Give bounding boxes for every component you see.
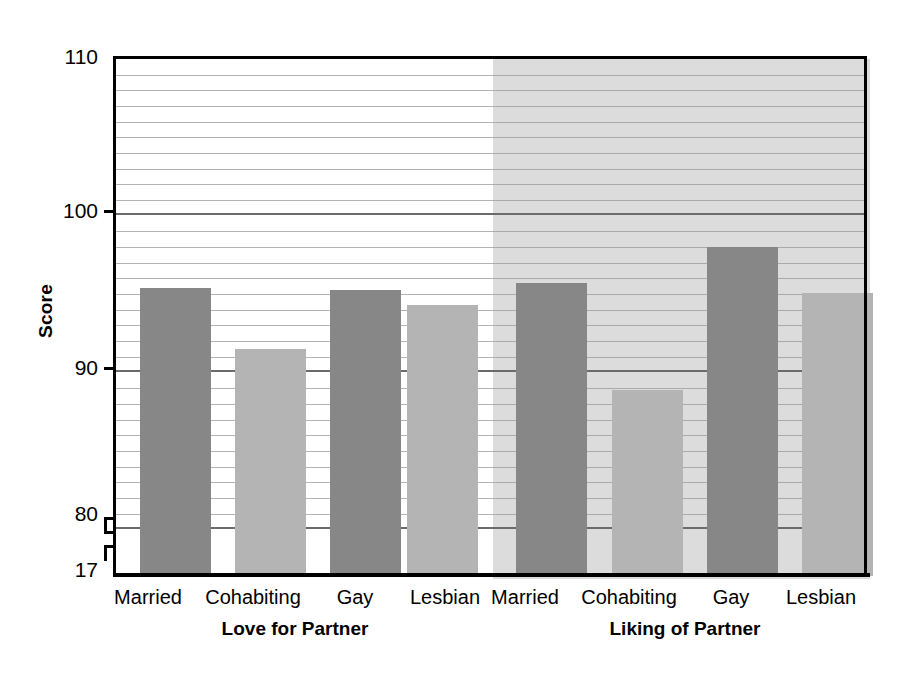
bar-liking-cohabiting[interactable]: [612, 390, 683, 576]
bar-love-married[interactable]: [140, 288, 211, 576]
gridline-108: [116, 90, 867, 91]
y-tick-label-90: 90: [46, 357, 98, 378]
group-label-love: Love for Partner: [165, 618, 425, 640]
y-tick-label-110: 110: [46, 46, 98, 67]
x-label-liking-lesbian: Lesbian: [761, 586, 881, 609]
y-tick-label-80: 80: [46, 503, 98, 524]
bar-liking-married[interactable]: [516, 283, 587, 576]
gridline-101: [116, 200, 867, 201]
axis-break-upper-stem: [104, 517, 107, 533]
group-label-liking: Liking of Partner: [545, 618, 825, 640]
y-tick-label-17: 17: [46, 559, 98, 580]
gridline-102: [116, 184, 867, 185]
gridline-104: [116, 153, 867, 154]
y-tick-label-100: 100: [46, 200, 98, 221]
bar-love-gay[interactable]: [330, 290, 401, 576]
gridline-99: [116, 231, 867, 232]
gridline-105: [116, 137, 867, 138]
gridline-109: [116, 75, 867, 76]
x-axis-rule: [113, 573, 870, 577]
gridline-106: [116, 122, 867, 123]
gridline-107: [116, 106, 867, 107]
gridline-100-major: [116, 213, 867, 215]
y-axis-title: Score: [35, 261, 57, 361]
bar-chart-figure: Score 110 100 90 80 17: [0, 0, 907, 678]
gridline-103: [116, 169, 867, 170]
bar-liking-lesbian[interactable]: [802, 293, 873, 576]
bar-love-lesbian[interactable]: [407, 305, 478, 576]
axis-break-lower-stem: [104, 545, 107, 561]
bar-love-cohabiting[interactable]: [235, 349, 306, 576]
plot-right-border: [864, 56, 867, 576]
bar-liking-gay[interactable]: [707, 247, 778, 576]
plot-area: [113, 56, 867, 576]
